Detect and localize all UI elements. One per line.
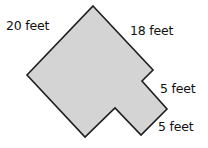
side-label-top-left: 20 feet [6, 20, 49, 33]
side-label-bottom-right: 5 feet [158, 121, 193, 134]
side-label-top-right: 18 feet [130, 25, 173, 38]
side-label-notch: 5 feet [160, 83, 195, 96]
